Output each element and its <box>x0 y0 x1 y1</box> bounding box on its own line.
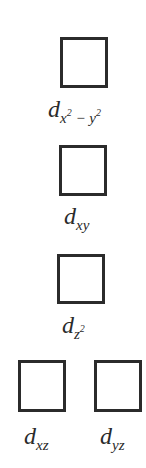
orbital-box-dz2 <box>57 254 105 304</box>
orbital-label-dxy: dxy <box>64 204 89 233</box>
orbital-label-dxz: dxz <box>24 424 49 453</box>
orbital-box-dxz <box>18 360 66 412</box>
orbital-label-dx2-y2: dx2 − y2 <box>48 97 101 126</box>
orbital-box-dxy <box>59 145 107 196</box>
orbital-label-dyz: dyz <box>100 424 125 453</box>
orbital-label-dz2: dz2 <box>62 313 85 342</box>
orbital-box-dx2-y2 <box>60 37 108 88</box>
orbital-box-dyz <box>94 360 142 412</box>
